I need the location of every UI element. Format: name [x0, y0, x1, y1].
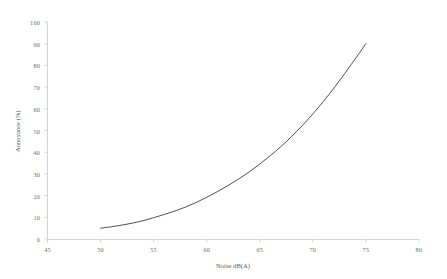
- x-axis-title: Noise dB(A): [216, 262, 250, 269]
- plot-area: [0, 0, 447, 279]
- y-tick-label: 80: [18, 62, 40, 69]
- y-tick-label: 10: [18, 214, 40, 221]
- y-tick-label: 100: [18, 19, 40, 26]
- y-tick-label: 0: [18, 236, 40, 243]
- x-tick-marks: [48, 240, 419, 243]
- x-tick-label: 50: [97, 246, 104, 253]
- y-tick-label: 60: [18, 105, 40, 112]
- chart-figure: 100 90 80 70 60 50 40 30 20 10 0 45 50 5…: [0, 0, 447, 279]
- x-tick-label: 45: [44, 246, 51, 253]
- y-tick-label: 90: [18, 40, 40, 47]
- x-tick-label: 55: [150, 246, 157, 253]
- data-series-line: [101, 44, 366, 228]
- y-tick-label: 50: [18, 127, 40, 134]
- y-tick-label: 30: [18, 170, 40, 177]
- y-tick-label: 70: [18, 84, 40, 91]
- x-tick-label: 70: [310, 246, 317, 253]
- y-axis-title: Annoyance (%): [14, 110, 21, 152]
- x-tick-label: 65: [256, 246, 263, 253]
- y-tick-marks: [45, 22, 48, 239]
- x-tick-label: 75: [363, 246, 370, 253]
- x-tick-label: 80: [416, 246, 423, 253]
- y-tick-label: 20: [18, 192, 40, 199]
- x-tick-label: 60: [203, 246, 210, 253]
- y-tick-label: 40: [18, 149, 40, 156]
